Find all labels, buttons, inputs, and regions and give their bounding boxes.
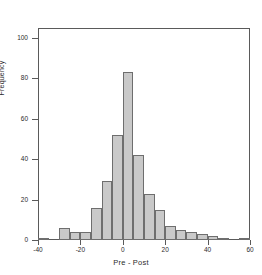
x-axis-tick-label: 20 xyxy=(153,246,177,253)
y-axis-title: Frequency xyxy=(0,38,5,118)
x-axis-tick xyxy=(123,240,124,245)
x-axis-tick-label: -20 xyxy=(68,246,92,253)
y-axis-tick xyxy=(32,38,38,39)
x-axis-tick xyxy=(250,240,251,245)
y-axis-tick xyxy=(32,159,38,160)
y-axis-tick-label: 40 xyxy=(0,155,28,162)
y-axis-tick xyxy=(32,78,38,79)
x-axis-tick xyxy=(208,240,209,245)
histogram-chart: 020406080100 -40-200204060 Frequency Pre… xyxy=(0,0,262,275)
plot-area-frame xyxy=(38,28,250,240)
y-axis-tick xyxy=(32,119,38,120)
y-axis-tick-label: 20 xyxy=(0,196,28,203)
x-axis-title: Pre - Post xyxy=(0,258,262,267)
y-axis-tick xyxy=(32,200,38,201)
x-axis-tick xyxy=(165,240,166,245)
x-axis-tick xyxy=(38,240,39,245)
y-axis-tick-label: 0 xyxy=(0,236,28,243)
x-axis-tick-label: 40 xyxy=(196,246,220,253)
x-axis-tick-label: 0 xyxy=(111,246,135,253)
x-axis-tick xyxy=(80,240,81,245)
x-axis-tick-label: -40 xyxy=(26,246,50,253)
x-axis-tick-label: 60 xyxy=(238,246,262,253)
